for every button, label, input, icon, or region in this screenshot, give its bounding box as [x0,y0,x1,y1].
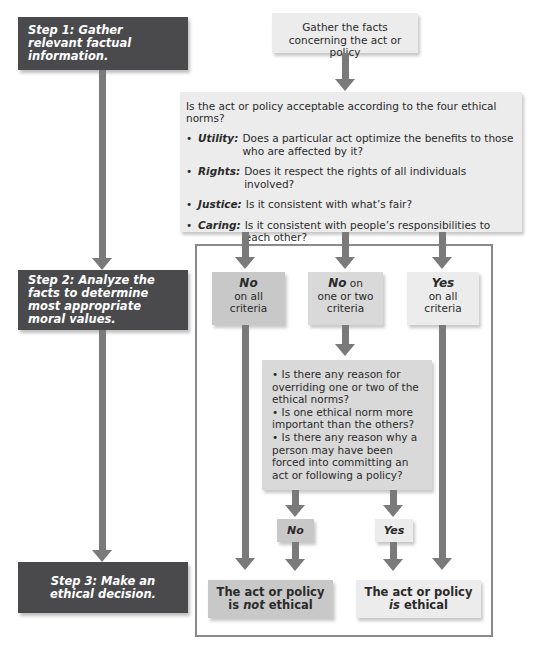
norm-utility: • Utility: Does a particular act optimiz… [186,132,516,157]
arrow-shaft-yes-to-ethical [439,325,446,558]
outcome-tail: one or two criteria [308,290,383,315]
arrow-shaft-q-yes [390,490,397,506]
norm-term: Rights: [198,165,240,190]
question-item: • Is there any reason why a person may h… [272,431,424,481]
question-item: • Is there any reason for overriding one… [272,368,424,406]
bullet-icon: • [186,165,198,190]
norm-rights: • Rights: Does it respect the rights of … [186,165,516,190]
arrow-shaft-q-no [292,490,299,506]
question-item: • Is one ethical norm more important tha… [272,406,424,431]
decision-post: ethical [404,598,448,612]
bullet-icon: • [272,406,282,418]
arrow-head-no-down [285,559,305,571]
arrow-head-q-yes [383,505,403,517]
arrow-head-norms [335,79,355,91]
norm-justice: • Justice: Is it consistent with what’s … [186,198,516,211]
outcome-tail: on all criteria [407,290,479,315]
answer-no-box: No [277,519,314,542]
override-questions-box: • Is there any reason for overriding one… [262,360,432,490]
arrow-head-yes-down [383,559,403,571]
step-2-box: Step 2: Analyze the facts to determine m… [18,270,188,330]
arrow-shaft-no-to-not-ethical [242,325,249,558]
outcome-tail: on all criteria [212,290,285,315]
arrow-shaft-no-down [292,542,299,560]
outcome-no-some: No on one or two criteria [308,272,383,325]
arrow-shaft-outcome-1 [242,232,249,258]
norm-term: Justice: [198,198,242,211]
arrow-head-outcome-1 [235,257,255,269]
norm-text: Does a particular act optimize the benef… [242,132,516,157]
arrow-head-ethical [432,558,452,570]
arrow-shaft-step2-step3 [99,330,106,550]
arrow-head-outcome-3 [432,257,452,269]
outcome-head: No [212,277,285,290]
bullet-icon: • [272,368,282,380]
norm-text: Is it consistent with what’s fair? [246,198,412,211]
step-2-label: Step 2: [28,273,74,287]
norms-question: Is the act or policy acceptable accordin… [186,100,516,124]
arrow-head-step2 [92,258,112,270]
gather-facts-box: Gather the facts concerning the act or p… [272,13,418,53]
bullet-icon: • [272,431,282,443]
outcome-no-all: No on all criteria [212,272,285,325]
step-3-box: Step 3: Make an ethical decision. [18,562,188,613]
arrow-shaft-facts-norms [342,53,349,79]
answer-no: No [287,524,304,537]
arrow-shaft-outcome-2 [342,232,349,258]
arrow-head-outcome-2 [335,257,355,269]
bullet-icon: • [186,132,198,157]
arrow-shaft-outcome-3 [439,232,446,258]
norm-text: Is it consistent with people’s responsib… [245,219,516,244]
step-1-box: Step 1: Gather relevant factual informat… [18,17,188,70]
ethical-norms-box: Is the act or policy acceptable accordin… [180,92,522,232]
norm-term: Utility: [198,132,238,157]
norm-term: Caring: [198,219,241,244]
outcome-head: No [328,276,346,290]
bullet-icon: • [186,198,198,211]
arrow-head-not-ethical [235,558,255,570]
outcome-yes-all: Yes on all criteria [407,272,479,325]
arrow-head-step3 [92,550,112,562]
norm-text: Does it respect the rights of all indivi… [244,165,516,190]
step-3-label: Step 3: [51,574,97,588]
arrow-head-q-no [285,505,305,517]
decision-emph: is [389,598,400,612]
arrow-head-questions [335,344,355,356]
decision-emph: not [243,598,265,612]
arrow-shaft-to-questions [342,325,349,345]
norm-caring: • Caring: Is it consistent with people’s… [186,219,516,244]
outcome-tail-inline: on [350,277,363,289]
decision-not-ethical-box: The act or policy is not ethical [208,580,333,618]
answer-yes: Yes [384,524,405,537]
step-1-label: Step 1: [28,23,74,37]
arrow-shaft-yes-down [390,542,397,560]
bullet-icon: • [186,219,198,244]
answer-yes-box: Yes [375,519,413,542]
decision-ethical-box: The act or policy is ethical [356,580,481,618]
decision-pre: is [228,598,239,612]
outcome-head: Yes [407,277,479,290]
decision-post: ethical [269,598,313,612]
arrow-shaft-step1-step2 [99,70,106,258]
